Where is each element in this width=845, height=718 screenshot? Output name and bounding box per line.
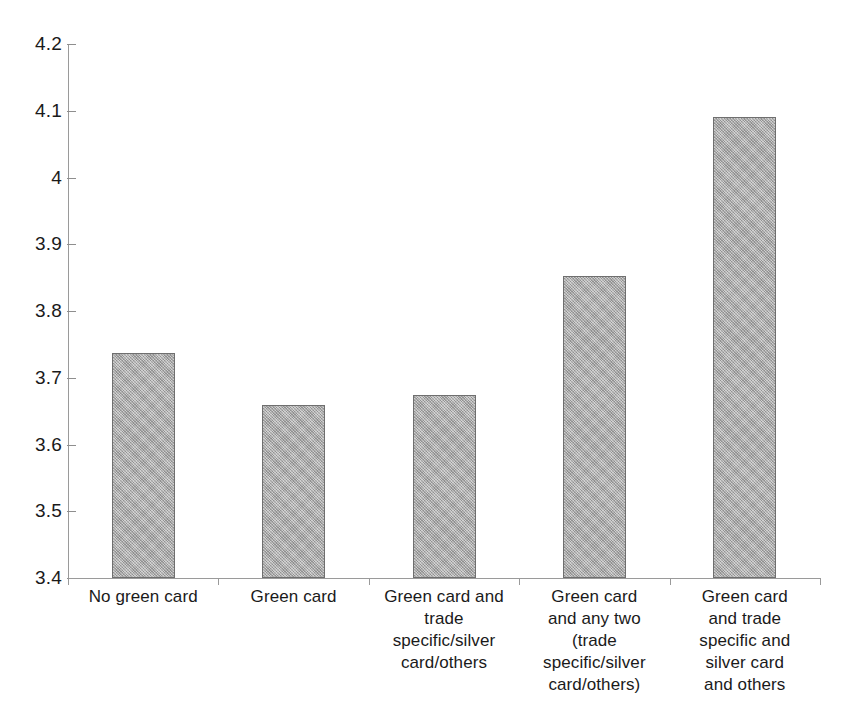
bar-chart: 4.24.143.93.83.73.63.53.4 No green cardG… xyxy=(0,0,845,718)
y-axis-tick-label: 4.1 xyxy=(35,98,62,124)
y-axis-tick-label: 3.7 xyxy=(35,365,62,391)
x-axis-label: Green card and trade specific/silver car… xyxy=(369,586,519,674)
category-separator-tick xyxy=(68,578,69,585)
category-separator-tick xyxy=(519,578,520,585)
y-axis-tick-label: 3.5 xyxy=(35,498,62,524)
category-separator-tick xyxy=(218,578,219,585)
y-axis-tick-label: 4.2 xyxy=(35,31,62,57)
x-axis-line xyxy=(68,578,820,579)
category-separator-tick xyxy=(369,578,370,585)
bar xyxy=(262,405,325,578)
x-axis-label: No green card xyxy=(68,586,218,608)
y-axis-tick-label: 4 xyxy=(51,165,62,191)
y-axis-tick-label: 3.8 xyxy=(35,298,62,324)
bar xyxy=(713,117,776,578)
bar xyxy=(563,276,626,578)
bar xyxy=(413,395,476,578)
y-axis-tick-label: 3.6 xyxy=(35,432,62,458)
y-axis-tick-label: 3.4 xyxy=(35,565,62,591)
bar xyxy=(112,353,175,578)
x-axis-label: Green card and trade specific and silver… xyxy=(670,586,820,696)
plot-area xyxy=(68,44,820,578)
x-axis-label: Green card and any two (trade specific/s… xyxy=(519,586,669,696)
category-separator-tick xyxy=(670,578,671,585)
x-axis-label: Green card xyxy=(218,586,368,608)
y-axis-tick-label: 3.9 xyxy=(35,231,62,257)
category-separator-tick xyxy=(820,578,821,585)
